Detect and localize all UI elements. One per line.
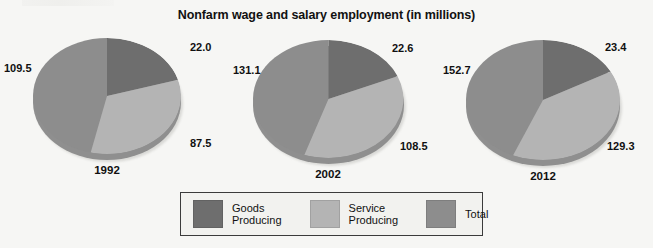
value-label-goods-2012: 23.4 bbox=[605, 41, 626, 53]
scan-artifact bbox=[22, 0, 114, 6]
legend: Goods Producing Service Producing Total bbox=[180, 192, 483, 236]
legend-item-goods-producing[interactable]: Goods Producing bbox=[193, 193, 282, 235]
pie-chart-2012 bbox=[466, 40, 620, 160]
value-label-service-2002: 108.5 bbox=[400, 140, 428, 152]
chart-canvas: Nonfarm wage and salary employment (in m… bbox=[0, 0, 653, 248]
year-label-2012: 2012 bbox=[513, 170, 573, 182]
legend-label-total: Total bbox=[465, 208, 488, 221]
pie-chart-1992 bbox=[33, 38, 181, 154]
legend-swatch-goods-producing bbox=[193, 200, 223, 228]
value-label-service-2012: 129.3 bbox=[607, 140, 635, 152]
legend-label-goods-producing: Goods Producing bbox=[232, 202, 282, 227]
year-label-2002: 2002 bbox=[298, 168, 358, 180]
pie-chart-2002 bbox=[253, 40, 404, 158]
legend-item-service-producing[interactable]: Service Producing bbox=[310, 193, 399, 235]
value-label-total-1992: 109.5 bbox=[4, 62, 32, 74]
pie-face bbox=[466, 40, 620, 160]
value-label-goods-1992: 22.0 bbox=[190, 41, 211, 53]
legend-item-total[interactable]: Total bbox=[426, 193, 488, 235]
pie-face bbox=[253, 40, 404, 158]
legend-swatch-total bbox=[426, 200, 456, 228]
year-label-1992: 1992 bbox=[77, 164, 137, 176]
legend-label-service-producing: Service Producing bbox=[349, 202, 399, 227]
value-label-service-1992: 87.5 bbox=[190, 137, 211, 149]
value-label-total-2002: 131.1 bbox=[233, 64, 261, 76]
value-label-goods-2002: 22.6 bbox=[392, 42, 413, 54]
page-title: Nonfarm wage and salary employment (in m… bbox=[0, 8, 653, 22]
value-label-total-2012: 152.7 bbox=[443, 64, 471, 76]
pie-face bbox=[33, 38, 181, 154]
legend-swatch-service-producing bbox=[310, 200, 340, 228]
